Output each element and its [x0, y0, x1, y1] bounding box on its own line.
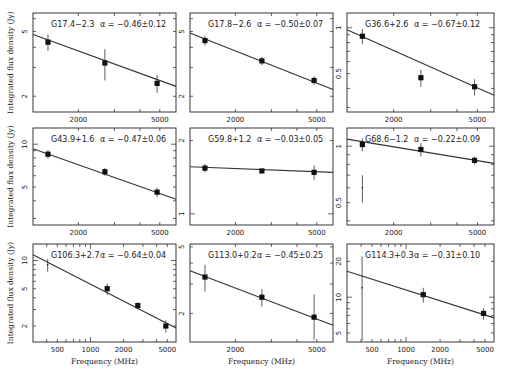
- spectral-index: α = −0.64±0.04: [100, 251, 166, 260]
- panel-title: G114.3+0.3: [365, 251, 414, 260]
- y-tick-label: 2: [178, 311, 186, 315]
- panel-2: 2000500025G17.8−2.6α = −0.50±0.07: [178, 13, 333, 124]
- panel-1: 2000500025G17.4−2.3α = −0.46±0.12Integra…: [6, 11, 176, 124]
- x-tick-label: 5000: [476, 346, 494, 354]
- x-tick-label: 500: [51, 346, 64, 354]
- x-tick-label: 2000: [226, 229, 244, 237]
- panel-title: G106.3+2.7: [51, 251, 100, 260]
- y-tick-label: 10: [335, 293, 343, 302]
- y-tick-label: 2: [178, 138, 186, 142]
- x-tick-label: 2000: [226, 346, 244, 354]
- panel-7: 5001000200050002510G106.3+2.7α = −0.64±0…: [6, 242, 176, 366]
- data-point: [202, 38, 207, 43]
- panel-4: 20005000510G43.9+1.6α = −0.47±0.06Integr…: [6, 125, 176, 237]
- x-tick-label: 1000: [397, 346, 415, 354]
- y-tick-label: 2: [178, 94, 186, 98]
- y-tick-label: 10: [21, 140, 29, 149]
- spectral-index: α = −0.45±0.25: [257, 251, 323, 260]
- data-point: [418, 147, 423, 152]
- data-point: [259, 168, 264, 173]
- y-tick-label: 20: [335, 257, 343, 266]
- y-axis-label: Integrated flux density (Jy): [6, 242, 15, 344]
- data-point: [135, 303, 140, 308]
- y-tick-label: 10: [21, 256, 29, 265]
- y-tick-label: 5: [178, 29, 186, 33]
- panel-title: G43.9+1.6: [51, 135, 94, 144]
- y-tick-label: 2: [21, 324, 29, 328]
- spectral-index: α = −0.47±0.06: [100, 135, 166, 144]
- y-tick-label: 5: [21, 286, 29, 290]
- x-tick-label: 2000: [226, 116, 244, 124]
- x-tick-label: 2000: [431, 346, 449, 354]
- data-point: [472, 84, 477, 89]
- x-tick-label: 5000: [468, 116, 486, 124]
- x-tick-label: 5000: [151, 116, 169, 124]
- y-tick-label: 5: [178, 245, 186, 249]
- y-axis-label: Integrated flux density (Jy): [6, 125, 15, 227]
- panel-3: 200050000.51G36.6+2.6α = −0.67±0.12: [335, 13, 494, 124]
- data-point: [481, 311, 486, 316]
- data-point: [102, 169, 107, 174]
- x-tick-label: 5000: [151, 229, 169, 237]
- y-tick-label: 1: [335, 26, 343, 30]
- data-point: [154, 190, 159, 195]
- y-tick-label: 0.5: [335, 197, 343, 208]
- spectral-index: α = −0.22±0.09: [414, 135, 480, 144]
- y-tick-label: 1: [335, 144, 343, 148]
- x-tick-label: 5000: [308, 346, 326, 354]
- x-tick-label: 2000: [385, 116, 403, 124]
- x-tick-label: 5000: [308, 229, 326, 237]
- x-tick-label: 2000: [69, 116, 87, 124]
- data-point: [259, 295, 264, 300]
- y-tick-label: 5: [335, 331, 343, 335]
- y-axis-label: Integrated flux density (Jy): [6, 11, 15, 113]
- x-axis-label: Frequency (MHz): [387, 357, 454, 366]
- fit-line: [33, 255, 176, 328]
- panel-title: G17.4−2.3: [51, 20, 94, 29]
- data-point: [163, 323, 168, 328]
- data-point: [311, 170, 316, 175]
- y-tick-label: 0.5: [335, 68, 343, 79]
- panel-9: 50010002000500051020G114.3+0.3α = −0.31±…: [335, 244, 494, 366]
- data-point: [421, 292, 426, 297]
- x-axis-label: Frequency (MHz): [228, 357, 295, 366]
- x-tick-label: 5000: [158, 346, 176, 354]
- spectral-index: α = −0.46±0.12: [100, 20, 166, 29]
- data-point: [105, 286, 110, 291]
- spectral-index: α = −0.03±0.05: [257, 135, 323, 144]
- panel-title: G59.8+1.2: [208, 135, 251, 144]
- spectral-index: α = −0.31±0.10: [414, 251, 480, 260]
- data-point: [102, 60, 107, 65]
- x-axis-label: Frequency (MHz): [71, 357, 138, 366]
- x-tick-label: 2000: [385, 229, 403, 237]
- data-point: [311, 315, 316, 320]
- panel-8: 2000500025G113.0+0.2α = −0.45±0.25Freque…: [178, 244, 333, 366]
- y-tick-label: 5: [21, 185, 29, 189]
- panel-6: 200050000.51G68.6−1.2α = −0.22±0.09: [335, 128, 494, 237]
- y-tick-label: 1: [178, 212, 186, 216]
- x-tick-label: 2000: [115, 346, 133, 354]
- figure-grid: 2000500025G17.4−2.3α = −0.46±0.12Integra…: [0, 0, 506, 369]
- x-tick-label: 5000: [468, 229, 486, 237]
- x-tick-label: 500: [365, 346, 378, 354]
- spectral-index: α = −0.67±0.12: [414, 20, 480, 29]
- data-point: [311, 78, 316, 83]
- panel-title: G17.8−2.6: [208, 20, 251, 29]
- x-tick-label: 2000: [69, 229, 87, 237]
- x-tick-label: 1000: [82, 346, 100, 354]
- data-point: [259, 58, 264, 63]
- y-tick-label: 5: [21, 29, 29, 33]
- data-point: [418, 75, 423, 80]
- fit-line: [347, 271, 494, 318]
- data-point: [45, 152, 50, 157]
- data-point: [362, 187, 364, 189]
- y-tick-label: 2: [21, 94, 29, 98]
- data-point: [45, 40, 50, 45]
- spectral-index: α = −0.50±0.07: [257, 20, 323, 29]
- panel-title: G113.0+0.2: [208, 251, 257, 260]
- data-point: [360, 34, 365, 39]
- data-point: [47, 264, 49, 266]
- panel-title: G36.6+2.6: [365, 20, 408, 29]
- panel-title: G68.6−1.2: [365, 135, 408, 144]
- data-point: [472, 158, 477, 163]
